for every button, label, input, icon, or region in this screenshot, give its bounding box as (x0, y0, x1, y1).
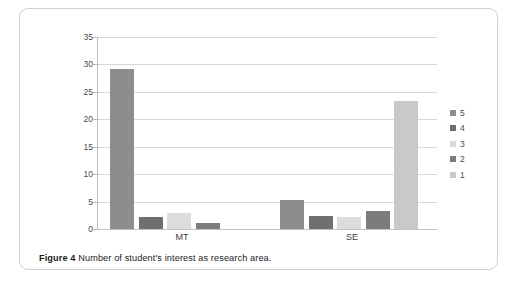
y-tick-label-35: 35 (59, 33, 93, 42)
y-tick-mark-20 (93, 119, 97, 120)
plot-area (97, 37, 437, 229)
y-tick-label-20: 20 (59, 115, 93, 124)
legend-label-4: 4 (460, 124, 465, 133)
y-tick-mark-0 (93, 229, 97, 230)
bar-SE-series-3 (337, 217, 361, 229)
figure-card: 05101520253035 MT SE 54321 Figure 4 Numb… (19, 8, 498, 270)
gridline-30 (97, 64, 437, 65)
legend-item-3[interactable]: 3 (450, 136, 490, 152)
bar-chart: 05101520253035 MT SE (20, 15, 499, 247)
y-tick-label-15: 15 (59, 142, 93, 151)
gridline-5 (97, 202, 437, 203)
legend-label-1: 1 (460, 171, 465, 180)
y-tick-mark-25 (93, 92, 97, 93)
legend-item-5[interactable]: 5 (450, 105, 490, 121)
y-tick-label-0: 0 (59, 225, 93, 234)
y-tick-mark-5 (93, 202, 97, 203)
bar-MT-series-4 (139, 217, 163, 229)
bar-SE-series-4 (309, 216, 333, 229)
legend-label-5: 5 (460, 109, 465, 118)
y-tick-label-10: 10 (59, 170, 93, 179)
y-tick-label-25: 25 (59, 88, 93, 97)
gridline-0 (97, 229, 437, 230)
bar-MT-series-2 (196, 223, 220, 229)
y-tick-mark-10 (93, 174, 97, 175)
legend-swatch-icon-2 (450, 156, 456, 162)
y-tick-mark-30 (93, 64, 97, 65)
bar-MT-series-5 (110, 69, 134, 229)
page-root: 05101520253035 MT SE 54321 Figure 4 Numb… (0, 0, 517, 286)
legend-item-1[interactable]: 1 (450, 167, 490, 183)
legend-label-3: 3 (460, 140, 465, 149)
x-axis-label-0: MT (97, 233, 267, 242)
y-tick-mark-15 (93, 147, 97, 148)
y-axis-line (97, 37, 98, 229)
figure-caption-text: Number of student's interest as research… (76, 253, 272, 263)
bar-SE-series-5 (280, 200, 304, 229)
gridline-35 (97, 37, 437, 38)
legend-swatch-icon-1 (450, 172, 456, 178)
y-tick-mark-35 (93, 37, 97, 38)
bar-SE-series-1 (394, 101, 418, 229)
legend-swatch-icon-5 (450, 110, 456, 116)
gridline-15 (97, 147, 437, 148)
chart-legend: 54321 (450, 105, 490, 183)
bar-MT-series-3 (167, 213, 191, 229)
gridline-10 (97, 174, 437, 175)
legend-item-2[interactable]: 2 (450, 152, 490, 168)
y-tick-label-5: 5 (59, 197, 93, 206)
gridline-25 (97, 92, 437, 93)
legend-swatch-icon-4 (450, 125, 456, 131)
y-tick-label-30: 30 (59, 60, 93, 69)
bar-SE-series-2 (366, 211, 390, 229)
gridline-20 (97, 119, 437, 120)
legend-label-2: 2 (460, 155, 465, 164)
x-axis-label-1: SE (267, 233, 437, 242)
y-axis-tick-labels: 05101520253035 (55, 37, 93, 229)
figure-caption: Figure 4 Number of student's interest as… (39, 252, 484, 264)
figure-caption-label: Figure 4 (39, 253, 76, 263)
legend-item-4[interactable]: 4 (450, 121, 490, 137)
legend-swatch-icon-3 (450, 141, 456, 147)
